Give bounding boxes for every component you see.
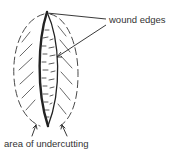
undercutting-label: area of undercutting	[4, 138, 89, 149]
undercutting-arrows	[32, 125, 67, 136]
wound-edges-leaders	[47, 13, 106, 57]
wound-bed-texture	[42, 30, 55, 117]
wound-edges-label: wound edges	[109, 14, 166, 25]
wound-edges-shape	[40, 12, 58, 126]
